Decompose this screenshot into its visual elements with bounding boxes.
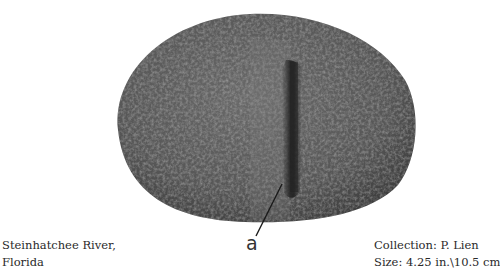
- callout-label-a: a: [246, 232, 258, 254]
- collection-line: Collection: P. Lien: [374, 237, 500, 254]
- location-line-2: Florida: [2, 254, 116, 271]
- stone-body: [100, 0, 430, 230]
- location-caption: Steinhatchee River, Florida: [2, 237, 116, 271]
- collection-caption: Collection: P. Lien Size: 4.25 in.\10.5 …: [374, 237, 500, 271]
- location-line-1: Steinhatchee River,: [2, 237, 116, 254]
- size-line: Size: 4.25 in.\10.5 cm: [374, 254, 500, 271]
